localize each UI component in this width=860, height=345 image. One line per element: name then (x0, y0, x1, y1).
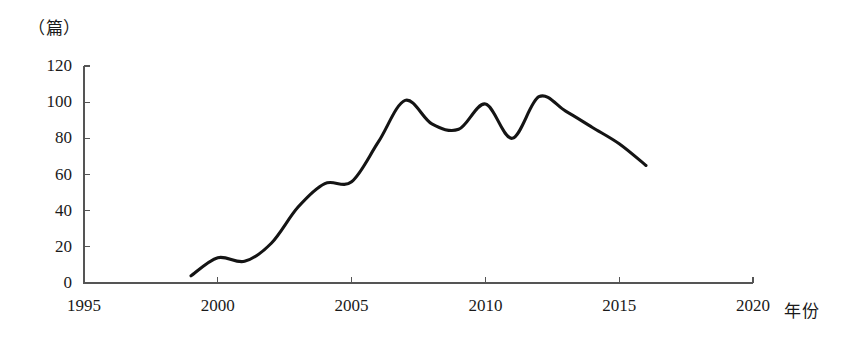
line-chart: （篇） 020406080100120 19952000200520102015… (0, 0, 860, 345)
series-line-篇数 (191, 96, 646, 276)
axis-lines (84, 66, 753, 283)
axes (84, 66, 753, 283)
x-axis-ticks (218, 277, 753, 283)
y-axis-ticks (84, 66, 90, 247)
data-series-group (191, 96, 646, 276)
plot-area (0, 0, 860, 345)
x-axis-unit-label: 年份 (784, 297, 819, 322)
